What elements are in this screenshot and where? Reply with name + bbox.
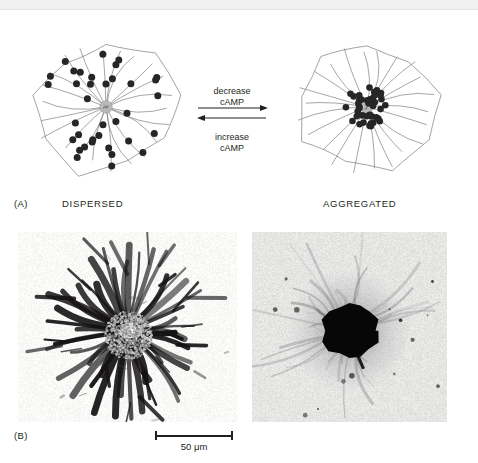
pigment-granule [343,104,350,111]
arrow-label-reverse-line2: cAMP [177,143,287,154]
page-top-band [0,0,478,9]
pigment-granule [358,96,365,103]
label-aggregated: AGGREGATED [323,198,396,209]
pigment-granule [356,105,363,112]
arrow-label-forward-line1: decrease [177,86,287,97]
pigment-granule [47,73,54,80]
pigment-granule [153,74,160,81]
pigment-granule [72,119,79,126]
pigment-granule [89,136,96,143]
pigment-granule [124,110,131,117]
pigment-granule [125,137,132,144]
pigment-granule [360,119,367,126]
pigment-granule [108,151,115,158]
pigment-granule [81,144,88,151]
figure-root: decrease cAMP increase cAMP (A) DISPERSE… [0,0,478,463]
label-dispersed: DISPERSED [62,198,123,209]
pigment-granule [350,93,357,100]
panel-b-tag: (B) [14,430,28,441]
scale-bar-cap-left [155,431,157,440]
pigment-granule [364,97,371,104]
scale-bar-label: 50 μm [155,441,233,452]
micrograph-dispersed [18,232,237,422]
pigment-granule [100,121,107,128]
pigment-granule [45,81,52,88]
cell-diagram-dispersed [33,45,181,177]
page-top-rule [0,9,478,10]
pigment-granule [99,51,106,58]
scale-bar [155,435,233,437]
arrow-label-reverse-line1: increase [177,132,287,143]
arrow-head-left [197,115,205,121]
pigment-granule [88,74,95,81]
pigment-granule [366,123,373,130]
pigment-granule [73,80,80,87]
pigment-granule [363,113,370,120]
pigment-granule [375,115,382,122]
panel-a-diagram: decrease cAMP increase cAMP [0,12,478,212]
arrow-label-reverse: increase cAMP [177,132,287,154]
pigment-granule [154,92,161,99]
pigment-granule [377,106,384,113]
arrow-label-forward: decrease cAMP [177,86,287,108]
cell-diagram-aggregated [298,46,441,173]
pigment-granule [112,118,119,125]
pigment-granule [349,118,356,125]
micrograph-aggregated [252,232,447,422]
pigment-granule [105,144,112,151]
scale-bar-cap-right [231,431,233,440]
pigment-granule [77,69,84,76]
pigment-granule [70,68,77,75]
pigment-granule [139,149,146,156]
pigment-granule [108,162,115,169]
pigment-granule [95,132,102,139]
pigment-granule [115,57,122,64]
pigment-granule [87,81,94,88]
arrow-label-forward-line2: cAMP [177,97,287,108]
pigment-granule [127,80,134,87]
pigment-granule [109,75,116,82]
panel-b-micrographs [0,232,478,424]
pigment-granule [62,58,69,65]
pigment-granule [84,95,91,102]
pigment-granule [102,80,109,87]
panel-a-tag: (A) [14,198,28,209]
pigment-granule [69,136,76,143]
pigment-granule [74,154,81,161]
pigment-granule [371,89,378,96]
pigment-granule [75,131,82,138]
panel-a-svg [0,12,478,212]
pigment-granule [378,96,385,103]
pigment-granule [151,130,158,137]
